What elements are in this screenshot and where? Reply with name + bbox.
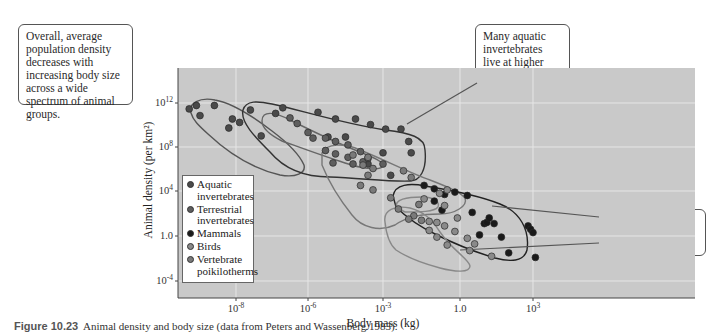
data-point (287, 115, 294, 122)
data-point (398, 126, 405, 133)
data-point (382, 126, 389, 133)
data-point (370, 165, 377, 172)
data-point (431, 198, 438, 205)
data-point (365, 154, 372, 161)
data-point (418, 217, 425, 224)
data-point (452, 228, 459, 235)
data-point (294, 120, 301, 127)
data-point (505, 250, 512, 257)
legend-label: Aquatic invertebrates (197, 179, 254, 202)
data-point (322, 135, 329, 142)
data-point (258, 133, 265, 140)
data-point (426, 227, 433, 234)
legend-item-vertebrate-poikilotherms: Vertebrate poikilotherms (187, 254, 250, 277)
figure-caption: Figure 10.23 Animal density and body siz… (14, 320, 397, 332)
data-point (471, 241, 478, 248)
data-point (345, 142, 352, 149)
svg-text:104: 104 (159, 183, 174, 196)
data-point (310, 135, 317, 142)
data-point (405, 138, 412, 145)
legend-dot-icon (187, 181, 194, 188)
data-point (279, 104, 286, 111)
data-point (498, 234, 505, 241)
data-point (357, 148, 364, 155)
legend-label: Birds (197, 241, 221, 253)
legend-item-birds: Birds (187, 241, 250, 253)
svg-text:10-6: 10-6 (300, 301, 317, 314)
data-point (434, 219, 441, 226)
data-point (408, 174, 415, 181)
data-point (352, 116, 359, 123)
data-point (350, 161, 357, 168)
data-point (464, 235, 471, 242)
data-point (387, 172, 394, 179)
data-point (380, 161, 387, 168)
data-point (416, 201, 423, 208)
data-point (441, 223, 448, 230)
data-point (332, 151, 339, 158)
data-point (236, 119, 243, 126)
svg-text:1.0: 1.0 (453, 303, 466, 314)
data-point (370, 187, 377, 194)
data-point (395, 206, 402, 213)
data-point (436, 190, 443, 197)
data-point (466, 247, 473, 254)
data-point (229, 116, 236, 123)
data-point (330, 160, 337, 167)
legend-dot-icon (187, 256, 194, 263)
figure-label: Figure 10.23 (14, 320, 78, 332)
data-point (434, 234, 441, 241)
data-point (225, 125, 232, 132)
legend-item-terrestrial-invertebrates: Terrestrial invertebrates (187, 204, 250, 227)
data-point (491, 220, 498, 227)
data-point (421, 196, 428, 203)
data-point (476, 232, 483, 239)
data-point (444, 242, 451, 249)
data-point (441, 202, 448, 209)
svg-text:103: 103 (526, 301, 541, 314)
data-point (322, 147, 329, 154)
data-point (365, 172, 372, 179)
legend-dot-icon (187, 230, 194, 237)
data-point (454, 215, 461, 222)
data-point (193, 102, 200, 109)
data-point (408, 149, 415, 156)
svg-text:108: 108 (159, 139, 174, 152)
data-point (186, 106, 193, 113)
data-point (405, 216, 412, 223)
data-point (305, 129, 312, 136)
data-point (247, 107, 254, 114)
data-point (486, 215, 493, 222)
legend-item-aquatic-invertebrates: Aquatic invertebrates (187, 179, 250, 202)
data-point (400, 167, 407, 174)
data-point (350, 152, 357, 159)
data-point (452, 189, 459, 196)
data-point (272, 110, 279, 117)
legend-dot-icon (187, 206, 194, 213)
svg-text:10-8: 10-8 (228, 301, 245, 314)
data-point (197, 112, 204, 119)
data-point (380, 149, 387, 156)
data-point (342, 134, 349, 141)
data-point (357, 182, 364, 189)
data-point (332, 116, 339, 123)
legend-label: Terrestrial invertebrates (197, 204, 254, 227)
data-point (488, 253, 495, 260)
data-point (532, 254, 539, 261)
data-point (211, 102, 218, 109)
data-point (332, 138, 339, 145)
data-point (360, 162, 367, 169)
data-point (530, 229, 537, 236)
data-point (469, 209, 476, 216)
legend-label: Vertebrate poikilotherms (197, 254, 258, 277)
data-point (444, 187, 451, 194)
legend-item-mammals: Mammals (187, 228, 250, 240)
data-point (315, 109, 322, 116)
chart-legend: Aquatic invertebratesTerrestrial inverte… (182, 175, 254, 283)
svg-text:1.0: 1.0 (160, 230, 173, 241)
svg-text:10-3: 10-3 (375, 301, 392, 314)
data-point (387, 194, 394, 201)
svg-text:1012: 1012 (155, 95, 173, 108)
data-point (426, 218, 433, 225)
